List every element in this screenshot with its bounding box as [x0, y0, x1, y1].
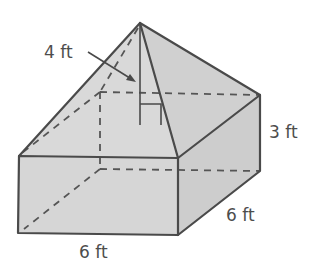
composite-solid-figure: 4 ft 3 ft 6 ft 6 ft	[0, 0, 318, 268]
label-prism-height: 3 ft	[269, 122, 298, 142]
prism-front-face	[18, 156, 178, 235]
label-prism-depth: 6 ft	[226, 205, 255, 225]
label-prism-width: 6 ft	[79, 242, 108, 262]
label-pyramid-height: 4 ft	[44, 42, 73, 62]
